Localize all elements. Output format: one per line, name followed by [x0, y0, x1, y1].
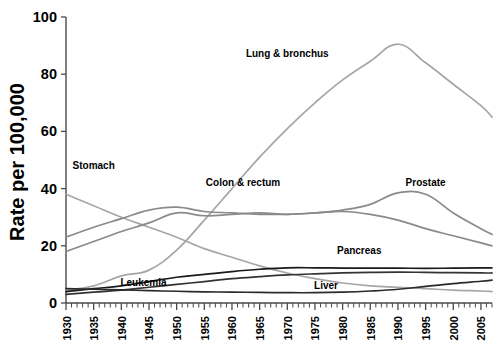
x-tick-label: 1980 [337, 316, 349, 340]
x-tick-label: 1985 [365, 316, 377, 340]
x-tick-label: 1965 [254, 316, 266, 340]
y-axis-title: Rate per 100,000 [6, 83, 28, 241]
series-line-prostate [66, 191, 492, 251]
x-tick-label: 1935 [88, 316, 100, 340]
series-line-colon-rectum [66, 207, 492, 246]
series-label-pancreas: Pancreas [337, 245, 382, 256]
series-label-liver: Liver [314, 280, 338, 291]
x-tick-label: 1975 [309, 316, 321, 340]
y-tick-label: 100 [33, 9, 57, 25]
x-tick-label: 1960 [226, 316, 238, 340]
cancer-death-rate-figure: 0204060801001930193519401945195019551960… [0, 0, 502, 350]
x-tick-label: 1990 [392, 316, 404, 340]
x-tick-label: 1955 [199, 316, 211, 340]
x-tick-label: 1950 [171, 316, 183, 340]
chart-canvas: 0204060801001930193519401945195019551960… [0, 0, 502, 350]
x-tick-label: 2005 [475, 316, 487, 340]
series-label-colon-rectum: Colon & rectum [206, 177, 281, 188]
y-tick-label: 80 [41, 66, 57, 82]
x-tick-label: 1930 [61, 316, 73, 340]
y-tick-label: 20 [41, 238, 57, 254]
y-tick-label: 40 [41, 181, 57, 197]
series-label-stomach: Stomach [73, 160, 115, 171]
series-label-lung-bronchus: Lung & bronchus [246, 48, 329, 59]
y-axis-title-text: Rate per 100,000 [6, 83, 28, 241]
y-tick-label: 0 [49, 295, 57, 311]
series-label-leukemia: Leukemia [120, 277, 167, 288]
series-label-prostate: Prostate [406, 177, 446, 188]
x-tick-label: 1995 [420, 316, 432, 340]
y-tick-label: 60 [41, 123, 57, 139]
x-tick-label: 2000 [448, 316, 460, 340]
x-tick-label: 1940 [116, 316, 128, 340]
series-lines [66, 44, 492, 294]
x-tick-label: 1945 [143, 316, 155, 340]
series-line-lung-bronchus [66, 44, 492, 290]
x-tick-label: 1970 [282, 316, 294, 340]
figure-caption-strip [0, 342, 502, 350]
series-labels: Lung & bronchusStomachColon & rectumPros… [73, 48, 447, 291]
